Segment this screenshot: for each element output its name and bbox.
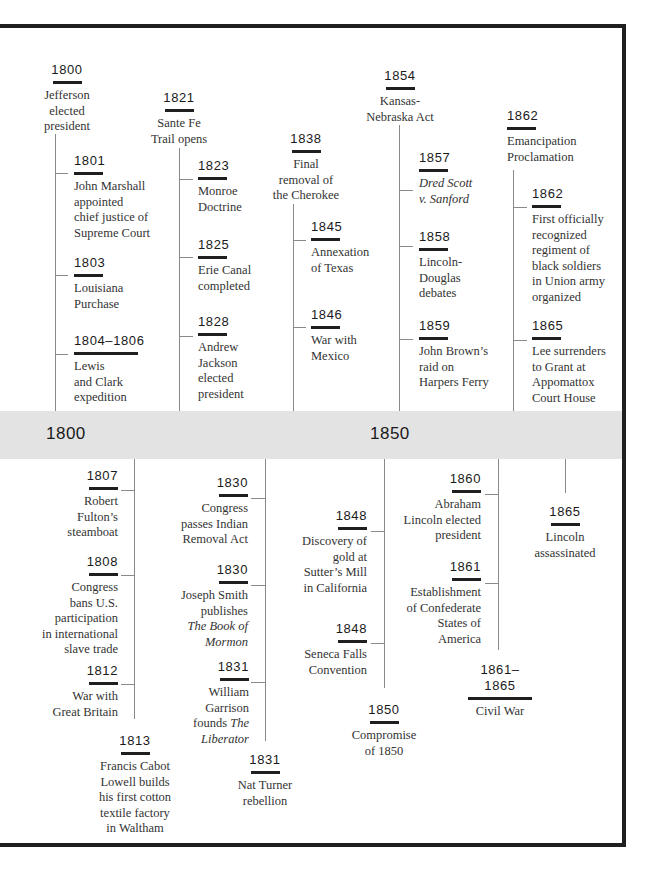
tick-connector-line	[485, 583, 498, 584]
event-description-line: Civil War	[465, 704, 535, 720]
event-description-line: president	[390, 528, 481, 544]
event-year: 1830	[217, 562, 248, 578]
event-description-line: slave trade	[30, 642, 118, 658]
event-description-line: Establishment	[390, 585, 481, 601]
year-underline-rule	[311, 238, 340, 241]
event-description: LouisianaPurchase	[74, 281, 174, 312]
event-description-line: Seneca Falls	[280, 647, 367, 663]
event-description-line: Joseph Smith	[160, 588, 248, 604]
event-description-line: Kansas-	[358, 94, 442, 110]
event-description-line: Nebraska Act	[358, 110, 442, 126]
year-underline-rule	[419, 248, 448, 251]
timeline-event: 1854Kansas-Nebraska Act	[358, 66, 442, 125]
year-underline-rule	[419, 169, 448, 172]
timeline-event: 1803LouisianaPurchase	[74, 253, 174, 312]
event-description-line: Fulton’s	[30, 510, 118, 526]
year-underline-rule	[311, 326, 340, 329]
event-description-line: Court House	[532, 391, 622, 407]
event-description-line: president	[198, 387, 278, 403]
event-description-line: War with	[30, 689, 118, 705]
event-description: Lincoln-Douglasdebates	[419, 255, 499, 302]
event-description-line: Liberator	[160, 732, 249, 748]
event-year: 1862	[507, 108, 538, 124]
tick-connector-line	[371, 531, 384, 532]
year-underline-rule	[74, 274, 103, 277]
tick-connector-line	[55, 173, 68, 174]
year-underline-rule	[198, 333, 227, 336]
tick-connector-line	[179, 257, 193, 258]
event-description: Dred Scottv. Sanford	[419, 176, 499, 207]
timeline-event: 1831WilliamGarrisonfounds TheLiberator	[160, 657, 249, 747]
year-underline-rule	[89, 573, 118, 576]
tick-connector-line	[513, 340, 527, 341]
event-description: RobertFulton’ssteamboat	[30, 494, 118, 541]
tick-connector-line	[251, 585, 265, 586]
event-description-line: president	[33, 119, 101, 135]
tick-connector-line	[251, 682, 265, 683]
event-description-line: Lee surrenders	[532, 344, 622, 360]
timeline-event: 1828AndrewJacksonelectedpresident	[198, 312, 278, 402]
tick-connector-line	[399, 246, 413, 247]
year-underline-rule	[219, 581, 248, 584]
event-description: Erie Canalcompleted	[198, 263, 278, 294]
event-description-line: completed	[198, 279, 278, 295]
event-description-line: participation	[30, 611, 118, 627]
event-description: John Brown’sraid onHarpers Ferry	[419, 344, 509, 391]
event-description: Congressbans U.S.participationin interna…	[30, 580, 118, 658]
band-label-1800: 1800	[46, 424, 86, 444]
timeline-event: 1831Nat Turnerrebellion	[230, 750, 300, 809]
event-description-line: to Grant at	[532, 360, 622, 376]
event-year: 1801	[74, 153, 105, 169]
event-description-line: rebellion	[230, 794, 300, 810]
event-description-line: Mexico	[311, 349, 391, 365]
event-year: 1800	[51, 62, 82, 78]
timeline-event: 1859John Brown’sraid onHarpers Ferry	[419, 316, 509, 391]
event-description-line: Lowell builds	[90, 775, 180, 791]
year-underline-rule	[220, 678, 249, 681]
timeline-event: 1825Erie Canalcompleted	[198, 235, 278, 294]
event-description-line: assassinated	[525, 546, 605, 562]
year-underline-rule	[74, 172, 103, 175]
event-description-line: Jefferson	[33, 88, 101, 104]
event-year: 1865	[549, 504, 580, 520]
event-description-line: elected	[198, 371, 278, 387]
timeline-event: 1860AbrahamLincoln electedpresident	[390, 469, 481, 544]
vertical-connector-line	[293, 204, 294, 411]
event-description-line: Convention	[280, 663, 367, 679]
event-description-line: Mormon	[160, 635, 248, 651]
event-year: 1850	[368, 702, 399, 718]
timeline-event: 1846War withMexico	[311, 305, 391, 364]
event-description-line: chief justice of	[74, 210, 174, 226]
vertical-connector-line	[265, 459, 266, 741]
year-underline-rule	[532, 337, 561, 340]
event-year: 1862	[532, 186, 563, 202]
event-description: EmancipationProclamation	[507, 134, 597, 165]
event-description: AbrahamLincoln electedpresident	[390, 497, 481, 544]
event-description-line: Erie Canal	[198, 263, 278, 279]
event-description-line: Purchase	[74, 297, 174, 313]
event-year: 1857	[419, 150, 450, 166]
event-description-line: passes Indian	[160, 517, 248, 533]
event-description-line: Discovery of	[280, 534, 367, 550]
event-description-line: v. Sanford	[419, 192, 499, 208]
event-description-line: Lincoln elected	[390, 513, 481, 529]
event-description: Seneca FallsConvention	[280, 647, 367, 678]
event-description-line: removal of	[266, 173, 346, 189]
timeline-event: 1845Annexationof Texas	[311, 217, 391, 276]
event-year: 1812	[87, 663, 118, 679]
timeline-event: 1850Compromiseof 1850	[345, 700, 423, 759]
event-year: 1828	[198, 314, 229, 330]
event-description: MonroeDoctrine	[198, 184, 278, 215]
event-description-line: States of	[390, 616, 481, 632]
event-description-line: Louisiana	[74, 281, 174, 297]
timeline-event: 1848Discovery ofgold atSutter’s Millin C…	[280, 506, 367, 596]
tick-connector-line	[251, 498, 265, 499]
event-description-line: debates	[419, 286, 499, 302]
event-year: 1846	[311, 307, 342, 323]
event-description-line: Final	[266, 157, 346, 173]
timeline-event: 1830Joseph SmithpublishesThe Book ofMorm…	[160, 560, 248, 650]
event-description-line: Supreme Court	[74, 226, 174, 242]
event-description-line: in California	[280, 581, 367, 597]
event-description-line: his first cotton	[90, 790, 180, 806]
event-description-line: War with	[311, 333, 391, 349]
